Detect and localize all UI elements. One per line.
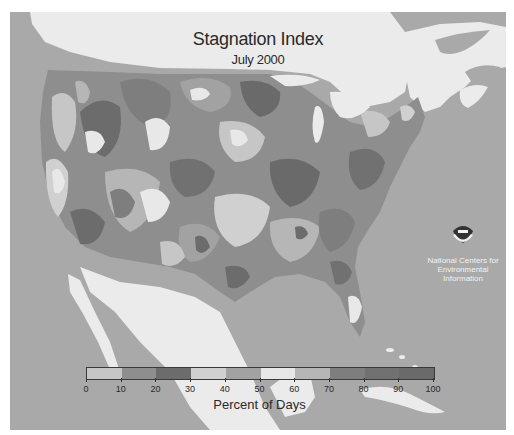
tick-label: 90	[393, 384, 403, 394]
org-line-1: National Centers for	[418, 256, 506, 265]
tick-mark	[190, 378, 191, 382]
tick-mark	[433, 378, 434, 382]
tick-mark	[329, 378, 330, 382]
tick-mark	[155, 378, 156, 382]
noaa-org-name: National Centers for Environmental Infor…	[418, 256, 506, 283]
tick-label: 100	[425, 384, 440, 394]
org-line-3: Information	[418, 274, 506, 283]
tick-label: 10	[116, 384, 126, 394]
tick-label: 60	[289, 384, 299, 394]
tick-mark	[121, 378, 122, 382]
map-title: Stagnation Index	[10, 29, 506, 50]
tick-mark	[398, 378, 399, 382]
tick-label: 80	[359, 384, 369, 394]
tick-mark	[364, 378, 365, 382]
org-line-2: Environmental	[418, 265, 506, 274]
tick-label: 20	[150, 384, 160, 394]
tick-label: 30	[185, 384, 195, 394]
st-lawrence-gulf	[465, 65, 506, 88]
tick-mark	[86, 378, 87, 382]
tick-mark	[225, 378, 226, 382]
legend-ticks: 0102030405060708090100	[86, 378, 433, 398]
tick-label: 0	[83, 384, 88, 394]
map-panel: Stagnation Index July 2000 National Cent…	[10, 12, 506, 430]
tick-label: 40	[220, 384, 230, 394]
legend-label: Percent of Days	[86, 397, 433, 412]
map-subtitle: July 2000	[10, 52, 506, 67]
tick-mark	[294, 378, 295, 382]
tick-label: 70	[324, 384, 334, 394]
nova-scotia	[460, 85, 488, 108]
tick-mark	[260, 378, 261, 382]
noaa-logo-icon	[450, 222, 476, 248]
noaa-logo-block: National Centers for Environmental Infor…	[418, 222, 506, 283]
tick-label: 50	[254, 384, 264, 394]
